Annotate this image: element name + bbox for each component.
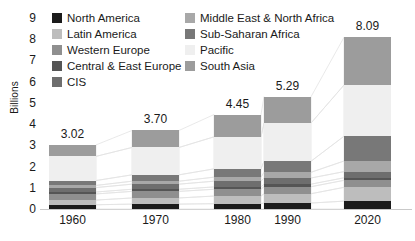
bar-segment	[214, 204, 261, 209]
bar-segment	[344, 161, 391, 172]
legend-swatch-icon	[52, 77, 62, 87]
bar-segment	[214, 181, 261, 187]
bar-segment	[49, 188, 96, 192]
legend-item[interactable]: Pacific	[185, 42, 334, 57]
legend-column: North AmericaLatin AmericaWestern Europe…	[52, 10, 181, 90]
bar-segment	[344, 201, 391, 209]
bar-1990	[264, 97, 311, 209]
legend-swatch-icon	[52, 29, 62, 39]
x-axis-tick-label: 2020	[344, 213, 391, 227]
bar-total-label: 3.02	[49, 128, 96, 140]
legend-swatch-icon	[185, 29, 195, 39]
bar-segment	[49, 194, 96, 200]
bar-segment	[264, 184, 311, 187]
legend-swatch-icon	[185, 61, 195, 71]
legend-item[interactable]: Middle East & North Africa	[185, 10, 334, 25]
bar-segment	[49, 181, 96, 186]
bar-segment	[132, 147, 179, 174]
bar-segment	[132, 191, 179, 198]
bar-segment	[264, 97, 311, 123]
bar-segment	[214, 187, 261, 189]
legend-swatch-icon	[52, 13, 62, 23]
bar-segment	[132, 175, 179, 181]
bar-1980	[214, 115, 261, 209]
legend-item[interactable]: North America	[52, 10, 181, 25]
bar-segment	[49, 185, 96, 187]
bar-segment	[344, 187, 391, 201]
bar-segment	[264, 178, 311, 184]
bar-segment	[214, 177, 261, 181]
bar-segment	[264, 187, 311, 194]
x-axis-tick-label: 1960	[49, 213, 96, 227]
bar-segment	[132, 189, 179, 191]
bar-segment	[49, 205, 96, 209]
legend-item-label: South Asia	[200, 60, 255, 72]
bar-segment	[49, 145, 96, 156]
legend-item-label: CIS	[67, 76, 86, 88]
bar-segment	[214, 169, 261, 177]
x-axis-tick-label: 1970	[132, 213, 179, 227]
bar-segment	[49, 200, 96, 205]
legend-item-label: Central & East Europe	[67, 60, 181, 72]
bar-segment	[49, 192, 96, 194]
bar-total-label: 4.45	[214, 98, 261, 110]
bar-segment	[49, 156, 96, 180]
bar-segment	[344, 180, 391, 187]
bar-1970	[132, 130, 179, 209]
bar-segment	[344, 136, 391, 161]
bar-segment	[214, 189, 261, 196]
bar-segment	[264, 123, 311, 161]
population-stacked-bar-chart: Billions 0123456789 3.0219603.7019704.45…	[0, 0, 415, 241]
bar-segment	[214, 115, 261, 137]
legend-item[interactable]: Sub-Saharan Africa	[185, 26, 334, 41]
legend-item[interactable]: South Asia	[185, 58, 334, 73]
bar-segment	[132, 204, 179, 209]
bar-1960	[49, 145, 96, 209]
legend-item-label: Pacific	[200, 44, 234, 56]
bar-segment	[214, 137, 261, 169]
bar-segment	[132, 181, 179, 184]
bar-segment	[344, 172, 391, 178]
x-axis-tick-label: 1980	[214, 213, 261, 227]
bar-segment	[264, 194, 311, 203]
bar-segment	[344, 178, 391, 181]
bar-segment	[132, 130, 179, 147]
legend-swatch-icon	[185, 45, 195, 55]
legend-item-label: Western Europe	[67, 44, 150, 56]
legend-swatch-icon	[185, 13, 195, 23]
x-axis-tick-label: 1990	[264, 213, 311, 227]
legend-item[interactable]: CIS	[52, 74, 181, 89]
bar-segment	[214, 196, 261, 204]
bar-segment	[264, 161, 311, 172]
legend-item[interactable]: Western Europe	[52, 42, 181, 57]
bar-segment	[264, 203, 311, 209]
legend-swatch-icon	[52, 45, 62, 55]
legend-item-label: North America	[67, 12, 140, 24]
bar-segment	[264, 172, 311, 178]
legend-item-label: Sub-Saharan Africa	[200, 28, 300, 40]
bar-segment	[132, 198, 179, 204]
bar-total-label: 3.70	[132, 113, 179, 125]
chart-legend: North AmericaLatin AmericaWestern Europe…	[52, 10, 402, 92]
legend-item-label: Middle East & North Africa	[200, 12, 334, 24]
bar-segment	[344, 85, 391, 136]
bar-segment	[132, 184, 179, 189]
legend-column: Middle East & North AfricaSub-Saharan Af…	[185, 10, 334, 74]
legend-item[interactable]: Central & East Europe	[52, 58, 181, 73]
legend-swatch-icon	[52, 61, 62, 71]
legend-item[interactable]: Latin America	[52, 26, 181, 41]
legend-item-label: Latin America	[67, 28, 137, 40]
